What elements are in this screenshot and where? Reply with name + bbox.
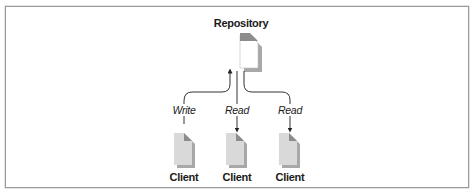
operation-label-read: Read — [224, 104, 250, 116]
client-label: Client — [223, 171, 252, 183]
diagram-canvas — [0, 0, 476, 194]
operation-label-write: Write — [172, 104, 197, 116]
client-document-icon — [226, 133, 247, 168]
connector-read-right — [244, 71, 290, 130]
client-label: Client — [170, 171, 199, 183]
client-document-icon — [174, 133, 195, 168]
client-label: Client — [276, 171, 305, 183]
client-document-icon — [279, 133, 300, 168]
repository-document-icon — [240, 33, 262, 72]
repository-label: Repository — [214, 17, 268, 29]
operation-label-read: Read — [277, 104, 303, 116]
connector-write — [184, 71, 230, 124]
